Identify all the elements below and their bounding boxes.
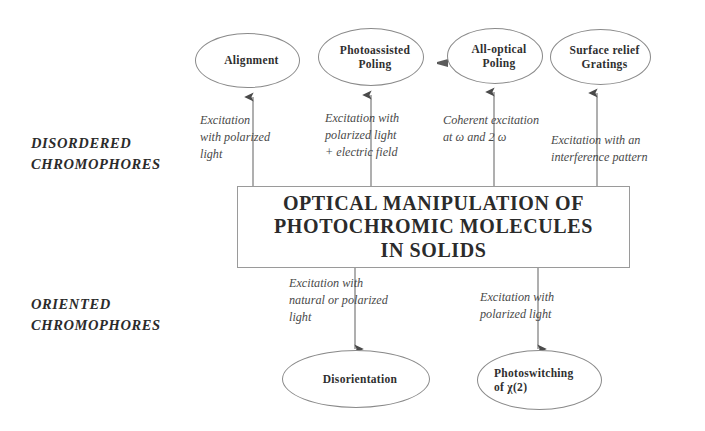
diagram-canvas: Alignment Photoassisted Poling All-optic… [0,0,705,431]
edge-label-photoswitching: Excitation with polarized light [480,289,615,323]
node-disorientation[interactable]: Disorientation [282,350,430,408]
node-all-optical-poling-line2: Poling [452,56,546,70]
center-box-line3: IN SOLIDS [381,239,487,263]
edge-label-photoassisted-poling: Excitation with polarized light + electr… [325,110,440,160]
node-all-optical-poling-line1: All-optical [452,42,546,56]
edge-label-surface-relief-gratings: Excitation with an interference pattern [551,132,701,166]
node-photoswitching-line2: of χ(2) [490,380,605,394]
node-surface-relief-gratings-line1: Surface relief [555,43,654,57]
node-all-optical-poling[interactable]: All-optical Poling [447,28,543,84]
center-box[interactable]: OPTICAL MANIPULATION OF PHOTOCHROMIC MOL… [237,186,630,268]
node-photoassisted-poling-line1: Photoassisted [323,43,427,57]
center-box-line2: PHOTOCHROMIC MOLECULES [274,215,593,239]
side-label-disordered-chromophores: DISORDERED CHROMOPHORES [31,133,211,175]
edge-label-alignment: Excitation with polarized light [200,112,312,162]
center-box-line1: OPTICAL MANIPULATION OF [283,192,584,216]
node-surface-relief-gratings[interactable]: Surface relief Gratings [550,29,651,85]
side-label-oriented-chromophores: ORIENTED CHROMOPHORES [31,294,211,336]
node-photoassisted-poling[interactable]: Photoassisted Poling [318,28,424,86]
node-alignment-line1: Alignment [200,53,303,67]
node-photoassisted-poling-line2: Poling [323,57,427,71]
node-photoswitching[interactable]: Photoswitching of χ(2) [477,350,602,410]
node-disorientation-line1: Disorientation [287,372,433,386]
edge-label-disorientation: Excitation with natural or polarized lig… [289,275,439,325]
node-surface-relief-gratings-line2: Gratings [555,57,654,71]
small-arrow-stub-icon [437,59,448,67]
node-alignment[interactable]: Alignment [195,33,300,88]
node-photoswitching-line1: Photoswitching [490,366,605,380]
